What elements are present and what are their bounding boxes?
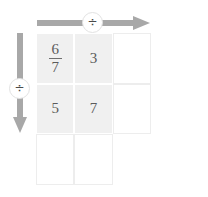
vertical-arrow-shaft xyxy=(17,33,23,119)
grid-cell-r1c3[interactable] xyxy=(113,33,151,84)
fraction-denominator: 7 xyxy=(49,60,61,75)
grid-cell-content: 3 xyxy=(75,34,111,83)
division-icon: ÷ xyxy=(87,16,97,28)
division-icon: ÷ xyxy=(14,82,24,94)
fraction-value: 67 xyxy=(49,42,62,76)
fraction-division-canvas: ÷ ÷ 67357 xyxy=(0,0,208,197)
grid-cell-r2c3[interactable] xyxy=(113,84,151,135)
grid-cell-r3c2[interactable] xyxy=(74,134,112,185)
grid-cell-content: 5 xyxy=(37,85,73,134)
left-division-operator-badge[interactable]: ÷ xyxy=(9,78,30,99)
grid-cell-content xyxy=(75,135,111,184)
grid-cell-r3c1[interactable] xyxy=(36,134,74,185)
vertical-arrow-head-icon xyxy=(13,117,27,133)
number-grid: 67357 xyxy=(36,33,151,185)
grid-cell-content xyxy=(114,34,150,83)
grid-cell-content: 67 xyxy=(37,34,73,83)
grid-cell-r2c1[interactable]: 5 xyxy=(36,84,74,135)
grid-cell-r2c2[interactable]: 7 xyxy=(74,84,112,135)
grid-cell-r3c3 xyxy=(113,134,151,185)
grid-cell-r1c2[interactable]: 3 xyxy=(74,33,112,84)
grid-cell-r1c1[interactable]: 67 xyxy=(36,33,74,84)
grid-cell-content: 7 xyxy=(75,85,111,134)
grid-cell-content xyxy=(113,134,151,185)
fraction-numerator: 6 xyxy=(49,42,61,57)
grid-cell-content xyxy=(37,135,73,184)
grid-cell-content xyxy=(114,85,150,134)
top-division-operator-badge[interactable]: ÷ xyxy=(82,12,103,33)
horizontal-arrow-head-icon xyxy=(133,16,150,30)
